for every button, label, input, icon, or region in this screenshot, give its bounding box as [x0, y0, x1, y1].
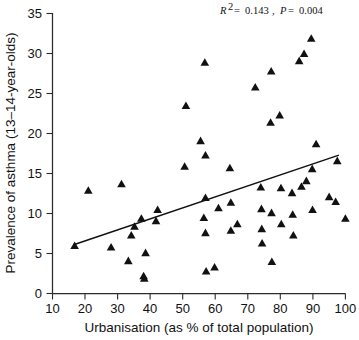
data-point-marker — [312, 140, 321, 148]
r-squared-equals: = — [234, 5, 240, 16]
data-point-marker — [153, 205, 162, 213]
data-point-marker — [233, 220, 242, 228]
r-squared-symbol: R — [219, 5, 227, 16]
data-point-marker — [251, 83, 260, 91]
data-point-marker — [201, 151, 210, 159]
data-point-marker — [325, 193, 334, 201]
y-axis-title: Prevalence of asthma (13–14-year-olds) — [3, 33, 18, 274]
y-tick-label-30: 30 — [28, 46, 42, 61]
chart-canvas: R 2 = 0.143 , P = 0.004 0 5 10 15 — [0, 0, 359, 340]
data-point-marker — [256, 183, 265, 191]
annotation-comma: , — [272, 5, 275, 16]
x-tick-label-50: 50 — [175, 301, 189, 316]
data-point-marker — [141, 249, 150, 257]
data-point-marker — [227, 198, 236, 206]
p-value: 0.004 — [299, 5, 323, 16]
y-tick-label-5: 5 — [35, 246, 42, 261]
x-tick-label-80: 80 — [273, 301, 287, 316]
x-tick-label-90: 90 — [306, 301, 320, 316]
data-point-marker — [300, 49, 309, 57]
data-point-marker — [268, 257, 277, 265]
data-point-marker — [289, 231, 298, 239]
x-tick-label-60: 60 — [208, 301, 222, 316]
data-point-marker — [201, 229, 210, 237]
data-point-marker — [295, 57, 304, 65]
data-point-marker — [266, 118, 275, 126]
data-point-marker — [196, 137, 205, 145]
y-tick-label-10: 10 — [28, 206, 42, 221]
x-tick-label-20: 20 — [78, 301, 92, 316]
data-point-marker — [201, 58, 210, 66]
data-point-marker — [182, 101, 191, 109]
data-point-marker — [124, 257, 133, 265]
data-point-marker — [210, 263, 219, 271]
x-axis-ticks — [53, 294, 346, 300]
y-tick-label-0: 0 — [35, 286, 42, 301]
data-point-marker — [277, 220, 286, 228]
r-squared-value: 0.143 — [245, 5, 269, 16]
statistics-annotation: R 2 = 0.143 , P = 0.004 — [219, 1, 323, 16]
data-points-layer — [70, 34, 349, 282]
data-point-marker — [258, 239, 267, 247]
y-tick-label-15: 15 — [28, 166, 42, 181]
p-symbol: P — [279, 5, 287, 16]
data-point-marker — [277, 184, 286, 192]
x-tick-label-100: 100 — [335, 301, 357, 316]
x-tick-label-40: 40 — [143, 301, 157, 316]
data-point-marker — [267, 209, 276, 217]
data-point-marker — [227, 226, 236, 234]
data-point-marker — [267, 67, 276, 75]
y-axis-ticks — [47, 14, 53, 294]
data-point-marker — [226, 164, 235, 172]
x-axis-tick-labels: 10 20 30 40 50 60 70 80 90 100 — [45, 301, 356, 316]
x-axis-title: Urbanisation (as % of total population) — [85, 320, 314, 335]
data-point-marker — [200, 213, 209, 221]
x-tick-label-70: 70 — [241, 301, 255, 316]
data-point-marker — [107, 243, 116, 251]
data-point-marker — [333, 157, 342, 165]
data-point-marker — [257, 225, 266, 233]
data-point-marker — [127, 231, 136, 239]
scatter-plot-figure: R 2 = 0.143 , P = 0.004 0 5 10 15 — [0, 0, 359, 340]
data-point-marker — [180, 162, 189, 170]
p-equals: = — [288, 5, 294, 16]
r-squared-exponent: 2 — [228, 1, 233, 12]
x-tick-label-10: 10 — [45, 301, 59, 316]
data-point-marker — [275, 111, 284, 119]
y-axis-tick-labels: 0 5 10 15 20 25 30 35 — [28, 6, 42, 301]
x-tick-label-30: 30 — [110, 301, 124, 316]
data-point-marker — [70, 241, 79, 249]
data-point-marker — [341, 214, 350, 222]
y-tick-label-20: 20 — [28, 126, 42, 141]
y-tick-label-35: 35 — [28, 6, 42, 21]
y-tick-label-25: 25 — [28, 86, 42, 101]
data-point-marker — [288, 189, 297, 197]
data-point-marker — [288, 210, 297, 218]
data-point-marker — [331, 197, 340, 205]
data-point-marker — [117, 180, 126, 188]
data-point-marker — [257, 205, 266, 213]
data-point-marker — [84, 186, 93, 194]
data-point-marker — [307, 34, 316, 42]
data-point-marker — [202, 267, 211, 275]
data-point-marker — [302, 177, 311, 185]
data-point-marker — [308, 205, 317, 213]
data-point-marker — [214, 204, 223, 212]
